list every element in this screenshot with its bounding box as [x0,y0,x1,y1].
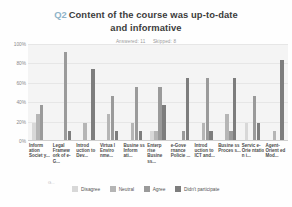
bar [131,123,134,140]
bar [202,123,205,140]
bar [83,123,86,140]
bar [111,96,114,140]
bar-group [52,44,76,140]
bar [257,123,260,140]
bar-group [123,44,147,140]
skipped-count: Skipped: 8 [153,39,176,44]
legend-item[interactable]: Agree [144,186,165,192]
plot-area [28,44,288,141]
y-axis-tick: 20% [16,119,26,124]
legend-label: Neutral [119,187,134,192]
bar [36,114,39,140]
bar [182,131,185,140]
bar-group [217,44,241,140]
bar [245,123,248,140]
title-line-1: Content of the course was up-to-date [69,9,238,20]
bar-group [146,44,170,140]
question-number: Q2 [54,9,67,20]
bar [162,105,165,140]
bar-group [170,44,194,140]
x-axis-label: Agent-Orient ed Mod... [264,143,288,183]
legend-swatch-icon [110,186,116,192]
x-axis: Inform ation Societ y...Legal Framew ork… [28,143,288,183]
bar [135,87,138,140]
legend-item[interactable]: Didn't participate [175,186,219,192]
bar-group [241,44,265,140]
chart-header: Q2Content of the course was up-to-date a… [0,0,292,44]
bar [40,105,43,140]
response-summary: Answered: 11 Skipped: 8 [14,39,278,44]
x-axis-label: Enterp rise Busine ss... [146,143,170,183]
bar [158,87,161,140]
bar [206,78,209,140]
answered-count: Answered: 11 [116,39,146,44]
bar [209,131,212,140]
y-axis-tick: 0% [19,139,26,144]
x-axis-label: Virtua l Enviro nme... [99,143,123,183]
y-axis-tick: 80% [16,61,26,66]
bar [280,60,283,140]
bar-group [75,44,99,140]
page-title: Q2Content of the course was up-to-date [14,4,278,22]
x-axis-label: e-Gove rnance Policie ... [170,143,194,183]
x-axis-label: Busine ss Inform ati... [123,143,147,183]
legend-item[interactable]: Neutral [110,186,134,192]
x-axis-label: Servic e-Orie ntatio n i... [241,143,265,183]
bar [91,69,94,140]
bar [253,96,256,140]
bar [139,131,142,140]
bar-group [193,44,217,140]
bar [186,78,189,140]
x-axis-label: Legal Framew ork of e-G... [52,143,76,183]
legend-label: Agree [153,187,166,192]
bar [115,131,118,140]
y-axis-tick: 100% [14,42,26,47]
bar [154,131,157,140]
x-axis-label: Introd uction to ICT and... [193,143,217,183]
bar [150,131,153,140]
x-axis-label: Busine ss Proces s... [217,143,241,183]
legend-swatch-icon [72,186,78,192]
legend-stray-text: G... [48,180,55,185]
y-axis: 100%80%60%40%20%0% [0,44,28,141]
bar [107,114,110,140]
y-axis-tick: 40% [16,100,26,105]
legend-swatch-icon [144,186,150,192]
legend-label: Disagree [81,187,100,192]
bar [273,131,276,140]
bar [64,52,67,140]
bar-group [264,44,288,140]
title-line-2: and informative [14,22,278,34]
bar [229,131,232,140]
legend-label: Didn't participate [184,187,220,192]
x-axis-label: Inform ation Societ y... [28,143,52,183]
bar [225,114,228,140]
x-axis-label: Introd uction to Dev... [75,143,99,183]
legend-swatch-icon [175,186,181,192]
chart-plot-wrapper: 100%80%60%40%20%0% Inform ation Societ y… [0,44,292,184]
bar-group [99,44,123,140]
legend-item[interactable]: Disagree [72,186,100,192]
bar [32,123,35,140]
bar [68,131,71,140]
y-axis-tick: 60% [16,80,26,85]
chart-legend: DisagreeNeutralAgreeDidn't participate [0,186,292,192]
bar-group [28,44,52,140]
survey-chart-card: Q2Content of the course was up-to-date a… [0,0,292,207]
bar [233,78,236,140]
